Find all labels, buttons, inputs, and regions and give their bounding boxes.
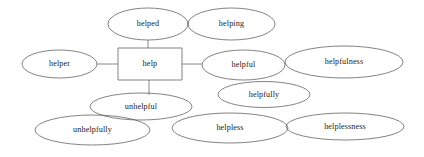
node-unhelpfully[interactable]: unhelpfully xyxy=(35,115,150,145)
node-helping-label: helping xyxy=(219,19,244,28)
node-helpless-label: helpless xyxy=(216,123,243,132)
node-helplessness[interactable]: helplessness xyxy=(286,113,404,140)
node-helper-label: helper xyxy=(49,59,70,68)
word-family-diagram: helped helping helper helpfulness helpfu… xyxy=(0,0,424,157)
node-helpful-label: helpful xyxy=(232,60,257,69)
node-helpfulness-label: helpfulness xyxy=(325,57,363,66)
node-helpful[interactable]: helpful xyxy=(202,50,285,80)
node-helpfulness[interactable]: helpfulness xyxy=(285,46,403,78)
node-unhelpful-label: unhelpful xyxy=(125,102,158,111)
node-helped-label: helped xyxy=(137,19,159,28)
node-help-label: help xyxy=(143,59,158,68)
node-helping[interactable]: helping xyxy=(188,8,275,40)
node-helper[interactable]: helper xyxy=(22,50,97,78)
node-helped[interactable]: helped xyxy=(108,8,188,40)
node-unhelpfully-label: unhelpfully xyxy=(73,125,113,134)
diagram-canvas: helped helping helper helpfulness helpfu… xyxy=(0,0,424,157)
node-helpless[interactable]: helpless xyxy=(172,113,288,143)
node-helpfully[interactable]: helpfully xyxy=(218,82,310,108)
node-helplessness-label: helplessness xyxy=(324,122,366,131)
node-helpfully-label: helpfully xyxy=(249,90,280,99)
node-help-root[interactable]: help xyxy=(118,48,182,80)
